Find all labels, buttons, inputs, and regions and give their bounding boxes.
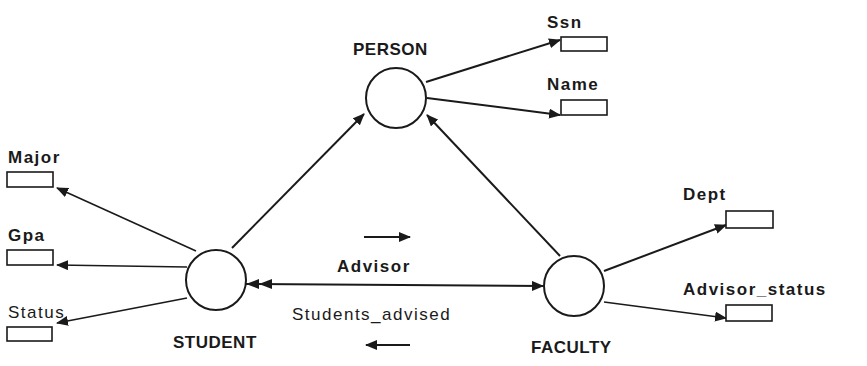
attribute-label-status: Status (8, 303, 65, 322)
entity-student-node[interactable] (186, 250, 246, 310)
attribute-label-gpa: Gpa (8, 226, 46, 245)
relationship-label-advisor: Advisor (337, 257, 411, 276)
relationship-label-students-advised: Students_advised (292, 305, 451, 324)
edge-student-to-status (57, 298, 187, 323)
attribute-box-status[interactable] (7, 327, 52, 341)
edge-person-to-ssn (426, 40, 560, 82)
attribute-box-gpa[interactable] (7, 250, 53, 265)
object-model-diagram: PERSON STUDENT FACULTY Ssn Name Major Gp… (0, 0, 867, 366)
attribute-label-dept: Dept (683, 185, 727, 204)
entity-label-student: STUDENT (173, 333, 257, 352)
attribute-label-ssn: Ssn (547, 13, 583, 32)
edge-person-to-name (427, 98, 560, 115)
arrowhead-students-advised-inner (246, 279, 259, 289)
attribute-box-dept[interactable] (726, 211, 773, 228)
arrowhead-students-advised-outer (259, 279, 272, 289)
edge-student-to-major (57, 188, 196, 251)
edge-faculty-to-person (427, 115, 560, 256)
edge-student-to-gpa (57, 265, 187, 267)
attribute-box-ssn[interactable] (561, 37, 607, 51)
edge-faculty-to-advisor-status (604, 302, 726, 318)
edge-faculty-to-dept (604, 225, 726, 271)
attribute-label-major: Major (8, 148, 61, 167)
edge-advisor-relationship (246, 284, 543, 286)
entity-faculty-node[interactable] (544, 256, 604, 316)
attribute-box-advisor-status[interactable] (726, 305, 772, 321)
entity-label-person: PERSON (353, 40, 428, 59)
attribute-label-advisor-status: Advisor_status (683, 280, 827, 299)
attribute-box-major[interactable] (7, 172, 53, 187)
attribute-label-name: Name (547, 75, 599, 94)
edge-student-to-person (232, 114, 364, 248)
entity-person-node[interactable] (366, 68, 426, 128)
attribute-box-name[interactable] (561, 100, 607, 115)
entity-label-faculty: FACULTY (531, 338, 612, 357)
